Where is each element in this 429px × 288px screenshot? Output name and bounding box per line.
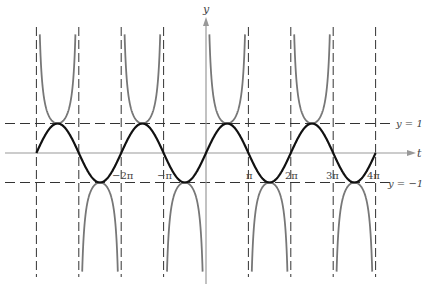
csc-branch: [252, 183, 288, 272]
csc-branch: [167, 183, 203, 272]
t-axis-label: t: [417, 148, 421, 159]
tick-negpi: −π: [157, 171, 172, 181]
y-axis-arrow-icon: [203, 17, 209, 26]
tick-4pi: 4π: [367, 171, 380, 181]
csc-branch: [125, 34, 161, 123]
csc-branch: [294, 34, 330, 123]
csc-branch: [337, 183, 373, 272]
chart-plot: [0, 0, 429, 288]
tick-pi: π: [246, 171, 253, 181]
y-eq-1-label: y = 1: [396, 119, 423, 129]
t-axis-arrow-icon: [407, 150, 416, 156]
tick-neg2pi: −2π: [112, 171, 133, 181]
tick-2pi: 2π: [285, 171, 298, 181]
csc-branch: [82, 183, 118, 272]
tick-3pi: 3π: [326, 171, 339, 181]
csc-branch: [40, 34, 76, 123]
y-eq-neg1-label: y = −1: [388, 179, 423, 189]
y-axis-label: y: [203, 4, 209, 15]
csc-branch: [209, 34, 245, 123]
